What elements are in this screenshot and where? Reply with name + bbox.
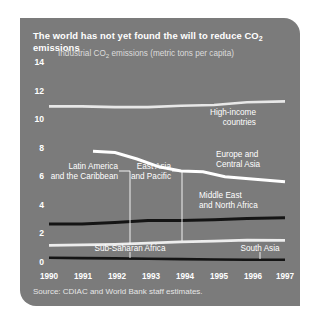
annotation-sub-saharan-africa: Sub-Saharan Africa (82, 244, 178, 254)
annotation-high-income-countries: High-income countries (210, 108, 256, 127)
annotation-east-asia-and-pacific: East Asia and Pacific (120, 162, 171, 181)
series-line-sub-saharan-africa-south-asia (49, 258, 285, 260)
annotation-east-asia-line1: East Asia (120, 162, 171, 172)
annotation-middle-east-and-north-africa: Middle East and North Africa (199, 191, 258, 210)
annotation-east-asia-line2: and Pacific (120, 172, 171, 182)
annotation-middle-east-line2: and North Africa (199, 201, 258, 211)
chart-card: The world has not yet found the will to … (20, 18, 300, 306)
annotation-europe-line2: Central Asia (216, 160, 260, 170)
annotation-latin-america-and-the-caribbean: Latin America and the Caribbean (38, 162, 118, 181)
annotation-high-income-line1: High-income (210, 108, 256, 118)
annotation-south-asia-line1: South Asia (226, 244, 294, 254)
annotation-latin-america-line1: Latin America (38, 162, 118, 172)
series-line-middle-east-and-north-africa (49, 218, 285, 224)
annotation-europe-line1: Europe and (216, 150, 260, 160)
annotation-south-asia: South Asia (226, 244, 294, 254)
annotation-sub-saharan-africa-line1: Sub-Saharan Africa (82, 244, 178, 254)
annotation-latin-america-line2: and the Caribbean (38, 172, 118, 182)
annotation-europe-and-central-asia: Europe and Central Asia (216, 150, 260, 169)
annotation-middle-east-line1: Middle East (199, 191, 258, 201)
series-line-high-income-countries (49, 101, 285, 107)
chart-source-note: Source: CDIAC and World Bank staff estim… (33, 287, 203, 296)
annotation-high-income-line2: countries (210, 118, 256, 128)
